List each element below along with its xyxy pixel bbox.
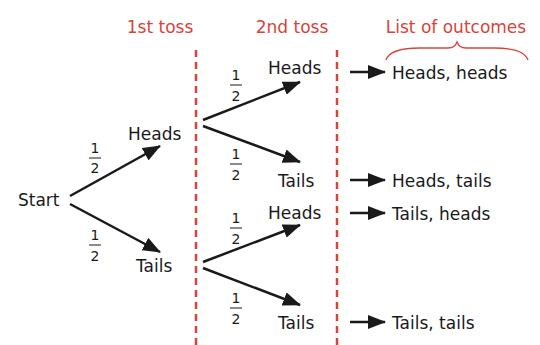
svg-text:2: 2 [232, 167, 241, 183]
svg-text:1: 1 [91, 227, 100, 243]
svg-text:1: 1 [232, 146, 241, 162]
prob-tails-heads: 1 2 [230, 210, 242, 247]
prob-heads-tails: 1 2 [230, 146, 242, 183]
node-second-tails-2: Tails [277, 313, 314, 333]
outcome-heads-tails: Heads, tails [392, 171, 492, 191]
outcomes-brace [386, 42, 528, 60]
branch-heads-heads [203, 82, 300, 120]
svg-text:1: 1 [232, 210, 241, 226]
svg-text:2: 2 [232, 88, 241, 104]
svg-text:2: 2 [91, 160, 100, 176]
header-second-toss: 2nd toss [256, 17, 329, 37]
prob-heads-heads: 1 2 [230, 67, 242, 104]
branch-tails-heads [203, 225, 300, 262]
svg-text:2: 2 [232, 311, 241, 327]
node-first-heads: Heads [128, 124, 181, 144]
node-first-tails: Tails [135, 256, 172, 276]
node-second-tails-1: Tails [277, 171, 314, 191]
svg-text:1: 1 [91, 140, 100, 156]
branch-tails-tails [203, 268, 300, 305]
node-second-heads-2: Heads [268, 203, 321, 223]
prob-tails-tails: 1 2 [230, 290, 242, 327]
prob-start-heads: 1 2 [89, 140, 101, 176]
tree-diagram: 1st toss 2nd toss List of outcomes Start… [0, 0, 540, 345]
svg-text:1: 1 [232, 67, 241, 83]
outcome-heads-heads: Heads, heads [392, 63, 508, 83]
svg-text:2: 2 [232, 231, 241, 247]
svg-text:1: 1 [232, 290, 241, 306]
prob-start-tails: 1 2 [89, 227, 101, 264]
outcome-tails-heads: Tails, heads [391, 204, 491, 224]
header-outcomes: List of outcomes [386, 17, 527, 37]
svg-text:2: 2 [91, 248, 100, 264]
branch-heads-tails [203, 126, 300, 162]
node-start: Start [18, 190, 60, 210]
outcome-tails-tails: Tails, tails [391, 313, 475, 333]
header-first-toss: 1st toss [127, 17, 194, 37]
branch-start-tails [70, 204, 160, 252]
branch-start-heads [70, 146, 160, 196]
node-second-heads-1: Heads [268, 58, 321, 78]
